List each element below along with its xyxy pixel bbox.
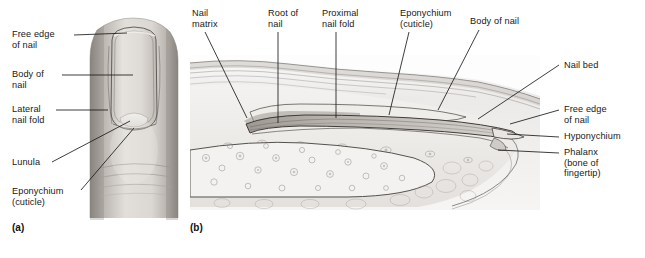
label-eponychium-b: Eponychium (cuticle) <box>400 8 451 29</box>
label-free-edge-of-nail-a: Free edge of nail <box>12 29 55 50</box>
panel-b-illustration <box>190 55 540 210</box>
label-body-of-nail-a: Body of nail <box>12 69 44 90</box>
figure-illustration <box>0 0 645 258</box>
panel-a-illustration <box>90 18 178 220</box>
panel-tag-b: (b) <box>190 222 203 233</box>
label-phalanx: Phalanx (bone of fingertip) <box>564 147 601 179</box>
panel-tag-a: (a) <box>12 222 24 233</box>
label-eponychium-a: Eponychium (cuticle) <box>12 186 63 207</box>
label-lunula-a: Lunula <box>12 157 40 168</box>
label-hyponychium: Hyponychium <box>564 131 621 142</box>
label-proximal-nail-fold: Proximal nail fold <box>322 8 358 29</box>
label-lateral-nail-fold-a: Lateral nail fold <box>12 104 45 125</box>
label-root-of-nail: Root of nail <box>268 8 298 29</box>
label-body-of-nail-b: Body of nail <box>470 16 519 27</box>
label-nail-matrix: Nail matrix <box>192 8 218 29</box>
label-free-edge-of-nail-b: Free edge of nail <box>564 104 607 125</box>
nail-anatomy-figure: Free edge of nail Body of nail Lateral n… <box>0 0 645 258</box>
label-nail-bed: Nail bed <box>564 60 598 71</box>
